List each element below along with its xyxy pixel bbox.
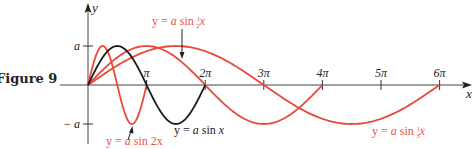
x-tick-label: 3π	[257, 66, 271, 80]
arrowhead-sin-2x-icon	[129, 126, 134, 134]
y-axis-label: y	[90, 0, 98, 15]
y-tick-label: a	[74, 39, 80, 53]
x-tick-label: 5π	[375, 66, 388, 80]
x-axis-label: x	[465, 86, 472, 101]
y-tick-label: − a	[63, 117, 80, 131]
sine-graph: x y π2π3π4π5π6π a− a y = a sin 12x y = a…	[0, 0, 473, 149]
label-sin-x: y = a sin x	[174, 123, 225, 137]
label-sin-2x: y = a sin 2x	[106, 134, 163, 148]
x-tick-label: 6π	[434, 66, 447, 80]
label-sin-half-x: y = a sin 12x	[152, 14, 206, 30]
x-tick-label: π	[144, 66, 151, 80]
figure-label: Figure 9	[0, 71, 57, 86]
figure-9-chart: Figure 9 x y π2π3π4π5π6π a− a y = a sin …	[0, 0, 473, 149]
arrowhead-sin-half-x-icon	[180, 52, 185, 59]
x-tick-label: 2π	[199, 66, 212, 80]
x-tick-label: 4π	[316, 66, 329, 80]
label-sin-third-x: y = a sin 13x	[372, 124, 426, 140]
